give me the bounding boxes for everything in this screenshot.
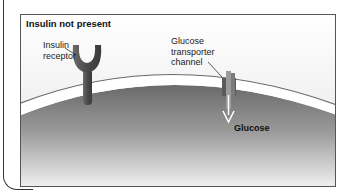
receptor-label-line2: receptor bbox=[43, 51, 76, 62]
glucose-channel-label: Glucose transporter channel bbox=[171, 36, 215, 68]
glucose-label: Glucose bbox=[234, 123, 270, 134]
channel-label-line1: Glucose bbox=[171, 36, 215, 47]
channel-label-line2: transporter bbox=[171, 47, 215, 58]
diagram-panel: Insulin not present Insulin receptor Glu… bbox=[20, 14, 336, 187]
channel-label-line3: channel bbox=[171, 57, 215, 68]
panel-title: Insulin not present bbox=[26, 18, 111, 29]
cell-interior bbox=[21, 85, 336, 187]
receptor-label-line1: Insulin bbox=[43, 40, 76, 51]
insulin-receptor-label: Insulin receptor bbox=[43, 40, 76, 61]
